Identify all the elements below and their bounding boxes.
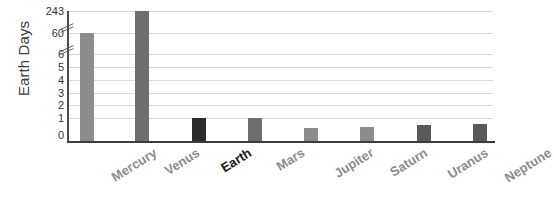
- x-axis-label-jupiter: Jupiter: [332, 145, 377, 181]
- plot-area: [67, 11, 493, 141]
- bar-mars: [248, 118, 262, 141]
- axis-break-icon: [60, 44, 74, 53]
- x-axis-label-uranus: Uranus: [445, 145, 491, 181]
- gridline: [67, 80, 493, 81]
- gridline: [67, 105, 493, 106]
- bar-neptune: [473, 124, 487, 141]
- x-axis-label-neptune: Neptune: [502, 145, 554, 185]
- x-axis-label-mercury: Mercury: [109, 145, 160, 185]
- y-axis-tick: 0: [58, 130, 64, 141]
- gridline: [67, 54, 493, 55]
- y-axis-tick: 4: [58, 75, 64, 86]
- y-axis-tick: 5: [58, 62, 64, 73]
- y-axis-tick: 3: [58, 88, 64, 99]
- bar-uranus: [417, 125, 431, 141]
- x-axis-label-venus: Venus: [162, 145, 202, 178]
- y-axis-tick: 1: [58, 113, 64, 124]
- axis-break-icon: [60, 22, 74, 31]
- y-axis-tick-labels: 243606543210: [28, 0, 64, 150]
- x-axis-label-earth: Earth: [218, 145, 254, 175]
- x-axis-label-mars: Mars: [274, 145, 308, 174]
- gridline: [67, 118, 493, 119]
- x-axis-label-saturn: Saturn: [387, 145, 430, 180]
- y-axis-tick: 243: [46, 6, 64, 17]
- bar-venus: [135, 11, 149, 141]
- gridline: [67, 93, 493, 94]
- bar-jupiter: [304, 128, 318, 141]
- x-axis-category-labels: MercuryVenusEarthMarsJupiterSaturnUranus…: [0, 143, 505, 209]
- bar-earth: [192, 118, 206, 141]
- gridline: [67, 11, 493, 12]
- gridline: [67, 33, 493, 34]
- y-axis-tick: 2: [58, 100, 64, 111]
- gridline: [67, 67, 493, 68]
- bar-mercury: [80, 33, 94, 141]
- bar-saturn: [360, 127, 374, 141]
